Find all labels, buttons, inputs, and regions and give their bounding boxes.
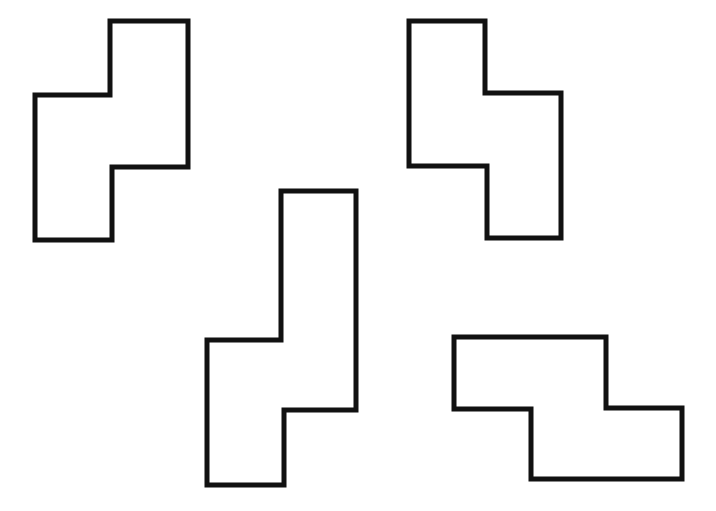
- shape-top-right: [409, 21, 561, 238]
- shape-bottom-right: [454, 337, 682, 479]
- shapes-canvas: [0, 0, 716, 511]
- shape-bottom-center: [207, 191, 356, 485]
- shape-top-left: [35, 21, 188, 240]
